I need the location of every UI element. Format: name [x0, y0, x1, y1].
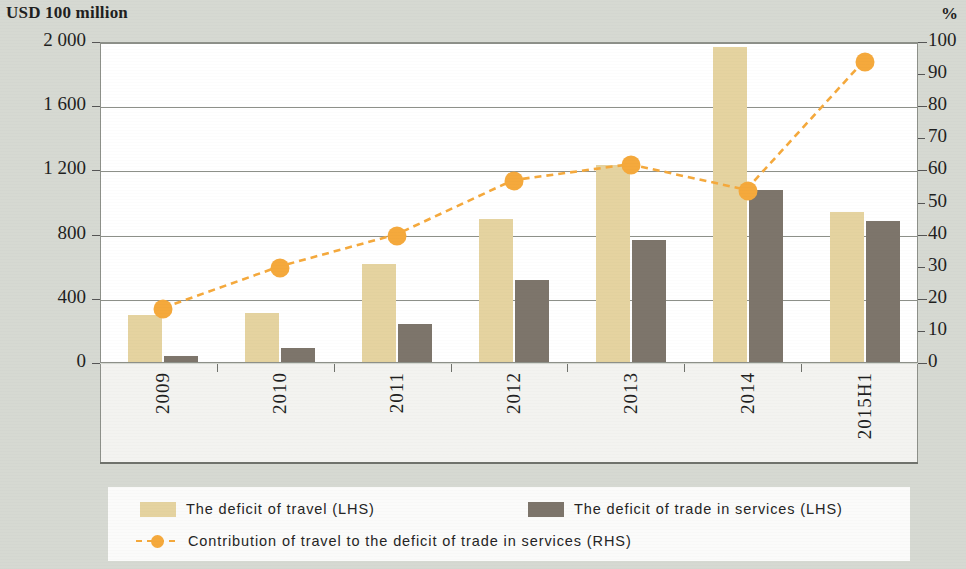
x-axis-tick-label: 2013	[620, 372, 642, 414]
left-axis-tick-label: 2 000	[2, 29, 86, 51]
line-marker	[505, 172, 524, 191]
x-axis-tick	[567, 364, 568, 372]
right-axis-tick	[918, 42, 927, 43]
left-axis-tick	[92, 299, 100, 300]
right-axis-tick-label: 60	[928, 157, 966, 179]
x-axis-tick-label: 2011	[386, 372, 408, 413]
line-series	[101, 43, 917, 362]
x-axis-tick	[334, 364, 335, 372]
left-axis-tick-label: 400	[2, 286, 86, 308]
x-axis-tick	[801, 364, 802, 372]
x-axis-tick-label: 2012	[503, 372, 525, 414]
right-axis-tick-label: 10	[928, 318, 966, 340]
x-axis-tick-label: 2015H1	[854, 372, 876, 439]
left-axis-tick-label: 1 600	[2, 93, 86, 115]
left-axis-tick	[92, 106, 100, 107]
legend-label-contribution: Contribution of travel to the deficit of…	[188, 533, 632, 549]
x-axis-tick	[684, 364, 685, 372]
right-axis-tick-label: 30	[928, 254, 966, 276]
left-axis-tick-label: 0	[2, 350, 86, 372]
legend-item-travel: The deficit of travel (LHS)	[140, 501, 375, 517]
line-marker	[388, 226, 407, 245]
line-marker	[621, 155, 640, 174]
right-axis-tick-label: 20	[928, 286, 966, 308]
x-axis-baseline	[100, 462, 918, 464]
right-axis-unit-label: %	[941, 4, 958, 24]
right-axis-tick-label: 70	[928, 125, 966, 147]
left-axis-tick	[92, 170, 100, 171]
right-axis-tick-label: 90	[928, 61, 966, 83]
x-axis-tick	[217, 364, 218, 372]
line-marker	[154, 300, 173, 319]
chart-plot-area	[100, 42, 918, 363]
legend-swatch-services	[528, 502, 564, 517]
right-axis-tick-label: 0	[928, 350, 966, 372]
legend-item-services: The deficit of trade in services (LHS)	[528, 501, 843, 517]
right-axis-tick	[918, 170, 927, 171]
line-marker	[855, 53, 874, 72]
left-axis-tick	[92, 363, 100, 364]
legend-label-travel: The deficit of travel (LHS)	[186, 501, 375, 517]
right-axis-tick	[918, 363, 927, 364]
line-marker	[271, 258, 290, 277]
left-axis-unit-label: USD 100 million	[6, 3, 128, 23]
right-axis-tick	[918, 74, 925, 75]
x-axis-tick-label: 2010	[269, 372, 291, 414]
chart-legend: The deficit of travel (LHS) The deficit …	[108, 487, 910, 561]
right-axis-tick-label: 40	[928, 222, 966, 244]
legend-swatch-travel	[140, 502, 176, 517]
legend-swatch-contribution-line-icon	[136, 533, 180, 549]
line-marker	[738, 181, 757, 200]
right-axis-tick	[918, 203, 925, 204]
left-axis-tick	[92, 42, 100, 43]
right-axis-tick	[918, 138, 925, 139]
right-axis-tick	[918, 331, 925, 332]
x-axis-tick-label: 2009	[152, 372, 174, 414]
right-axis-tick-label: 50	[928, 190, 966, 212]
right-axis-tick	[918, 235, 927, 236]
right-axis-tick	[918, 267, 925, 268]
legend-item-contribution: Contribution of travel to the deficit of…	[136, 533, 632, 549]
x-axis-tick	[451, 364, 452, 372]
left-axis-tick	[92, 235, 100, 236]
left-axis-tick-label: 800	[2, 222, 86, 244]
right-axis-tick	[918, 299, 927, 300]
right-axis-tick	[918, 106, 927, 107]
legend-label-services: The deficit of trade in services (LHS)	[574, 501, 843, 517]
left-axis-tick-label: 1 200	[2, 157, 86, 179]
right-axis-tick-label: 100	[928, 29, 966, 51]
x-axis-tick-label: 2014	[737, 372, 759, 414]
right-axis-tick-label: 80	[928, 93, 966, 115]
